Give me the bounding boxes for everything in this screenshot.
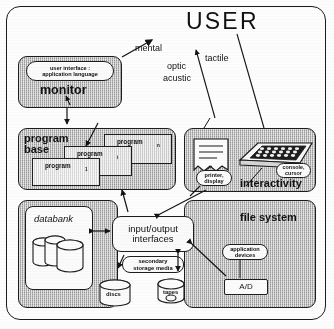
databank-label: databank <box>34 214 73 224</box>
program-card-1-index: 1 <box>85 168 88 173</box>
console-cursor-line2: cursor <box>283 171 305 177</box>
io-line2: interfaces <box>128 234 178 244</box>
optic-label: optic <box>167 62 186 71</box>
program-card-1-label: program <box>45 163 71 170</box>
ad-converter-label: A/D <box>239 283 252 291</box>
io-interfaces-box: input/output interfaces <box>112 216 194 252</box>
tapes-label: tapes <box>163 289 178 295</box>
application-devices-pill: application devices <box>222 244 268 260</box>
mental-label: mental <box>135 44 162 53</box>
printer-display-line2: display <box>204 178 223 184</box>
file-system-label: file system <box>240 212 297 224</box>
printer-display-pill: printer, display <box>196 170 232 186</box>
program-card-n-label: program <box>117 139 143 146</box>
program-card-i-label: program <box>77 151 103 158</box>
program-card-1: program 1 <box>32 158 100 186</box>
acustic-label: acustic <box>163 74 191 83</box>
program-base-label-line2: base <box>24 144 49 156</box>
monitor-label: monitor <box>40 84 87 97</box>
secondary-storage-line1: secondary <box>133 258 172 264</box>
console-cursor-pill: console, cursor <box>276 163 311 178</box>
program-card-i-index: i <box>117 156 118 161</box>
program-card-n-index: n <box>157 144 160 149</box>
secondary-storage-pill: secondary storage media <box>122 256 184 273</box>
page-title: USER <box>186 8 259 35</box>
tactile-label: tactile <box>205 54 229 63</box>
secondary-storage-line2: storage media <box>133 265 172 271</box>
diagram-canvas: USER user interface : application langua… <box>0 0 334 329</box>
ad-converter-box: A/D <box>224 279 268 295</box>
application-devices-line2: devices <box>230 252 260 258</box>
interactivity-label: interactivity <box>240 178 302 190</box>
user-interface-pill: user interface : application language <box>26 61 114 81</box>
discs-label: discs <box>106 291 121 297</box>
user-interface-line2: application language <box>42 71 98 77</box>
